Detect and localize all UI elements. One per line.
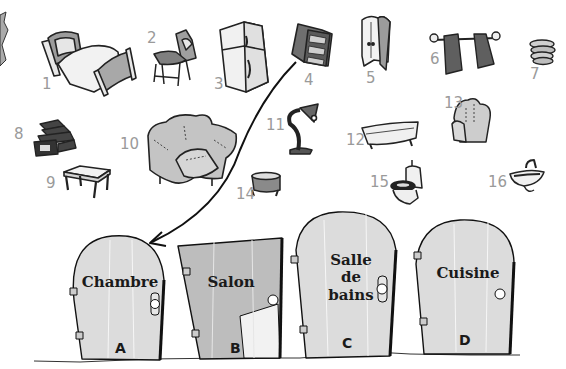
door-d-letter: D <box>459 332 471 348</box>
item-number-11: 11 <box>266 118 285 133</box>
item-number-13: 13 <box>444 96 463 111</box>
table-icon <box>64 166 110 198</box>
door-c-letter: C <box>342 335 352 351</box>
bed-icon <box>42 32 136 96</box>
sink-icon <box>510 160 544 191</box>
item-number-15: 15 <box>370 175 389 190</box>
item-number-14: 14 <box>236 187 255 202</box>
item-number-6: 6 <box>430 52 440 67</box>
item-number-5: 5 <box>366 71 376 86</box>
item-number-3: 3 <box>214 77 224 92</box>
door-b-label: Salon <box>200 274 262 291</box>
towels-icon <box>430 32 500 74</box>
door-c-label: Salle de bains <box>320 252 382 304</box>
door-a-letter: A <box>115 340 126 356</box>
item-number-16: 16 <box>488 175 507 190</box>
sofa-icon <box>148 115 236 186</box>
item-number-2: 2 <box>147 31 157 46</box>
fridge-icon <box>220 22 268 92</box>
wardrobe-icon <box>362 16 390 70</box>
item-number-4: 4 <box>304 73 314 88</box>
item-number-10: 10 <box>120 137 139 152</box>
toilet-icon <box>391 160 422 204</box>
door-a-label: Chambre <box>80 274 160 291</box>
item-number-12: 12 <box>346 133 365 148</box>
item-number-7: 7 <box>530 67 540 82</box>
cooking-pot-icon <box>252 173 280 197</box>
door-b-letter: B <box>230 340 241 356</box>
item-number-1: 1 <box>42 77 52 92</box>
vocabulary-illustration: 1 2 3 4 5 6 7 8 9 10 11 12 13 14 15 16 C… <box>0 0 566 369</box>
door-c-label-line-2: de <box>320 269 382 286</box>
item-number-8: 8 <box>14 127 24 142</box>
door-d-label: Cuisine <box>430 265 506 282</box>
bookcase-icon <box>292 24 332 66</box>
chair-icon <box>154 30 196 86</box>
bathtub-icon <box>362 122 418 149</box>
cropped-figure-icon <box>0 12 8 66</box>
door-c-label-line-1: Salle <box>320 252 382 269</box>
desk-lamp-icon <box>289 104 318 154</box>
plates-icon <box>530 40 555 65</box>
illustration-canvas <box>0 0 566 369</box>
door-c-label-line-3: bains <box>320 287 382 304</box>
item-number-9: 9 <box>46 176 56 191</box>
video-tapes-icon <box>34 120 76 156</box>
